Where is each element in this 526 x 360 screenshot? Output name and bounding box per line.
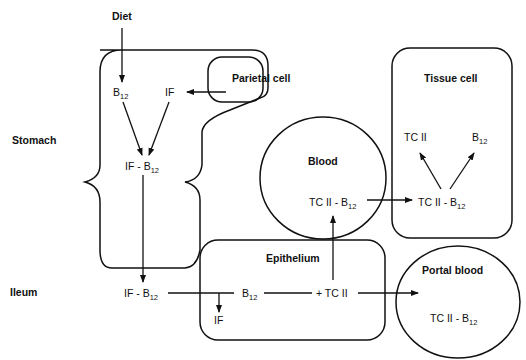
if-b12-complex-ileum: IF - B12 <box>124 287 158 299</box>
diet-label: Diet <box>112 10 132 22</box>
plus-tc2: + TC II <box>316 287 348 299</box>
portal-blood-outline <box>396 246 520 358</box>
tc2-b12-tissue: TC II - B12 <box>418 196 465 208</box>
stomach-label: Stomach <box>12 134 56 146</box>
arrow-tissue-b12 <box>450 153 474 189</box>
tc2-tissue: TC II <box>404 131 427 143</box>
tc2-b12-portal: TC II - B12 <box>430 312 477 324</box>
epithelium-label: Epithelium <box>266 252 320 264</box>
tissue-cell-label: Tissue cell <box>424 72 478 84</box>
arrow-if-complex <box>149 102 169 155</box>
blood-label: Blood <box>308 155 338 167</box>
b12-epithelium: B12 <box>242 287 257 299</box>
if-released: IF <box>214 314 223 326</box>
if-stomach: IF <box>165 86 174 98</box>
if-b12-complex-stomach: IF - B12 <box>125 160 159 172</box>
blood-outline <box>260 117 386 239</box>
ileum-label: Ileum <box>10 286 37 298</box>
tc2-b12-blood: TC II - B12 <box>309 196 356 208</box>
b12-stomach: B12 <box>113 86 128 98</box>
portal-blood-label: Portal blood <box>422 264 483 276</box>
b12-tissue: B12 <box>472 131 487 143</box>
diagram-canvas <box>0 0 526 360</box>
parietal-cell-label: Parietal cell <box>232 72 290 84</box>
arrow-tissue-tc2 <box>420 153 441 189</box>
arrow-b12-complex <box>123 102 142 155</box>
